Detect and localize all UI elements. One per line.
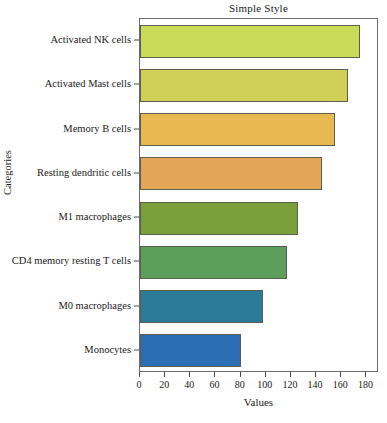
y-axis-tick-label: Monocytes [84,344,131,356]
x-tick-mark [365,372,366,377]
y-axis-tick-label: M0 macrophages [58,300,131,312]
x-tick-mark [240,372,241,377]
x-axis-tick-label: 160 [333,379,348,391]
x-tick-mark [265,372,266,377]
x-axis-tick-label: 40 [184,379,194,391]
bar [140,246,287,279]
x-axis-tick-label: 120 [282,379,297,391]
plot-area [139,18,378,372]
x-axis-tick-label: 80 [235,379,245,391]
bar [140,290,263,323]
y-axis-tick-label: Activated Mast cells [45,78,131,90]
y-axis-tick-label: Memory B cells [63,123,131,135]
chart-title: Simple Style [139,1,378,15]
bar [140,69,348,102]
x-tick-mark [290,372,291,377]
y-axis-tick-label: CD4 memory resting T cells [12,255,131,267]
x-axis-tick-label: 100 [257,379,272,391]
bar-chart: Simple Style Categories Activated NK cel… [0,0,387,423]
y-axis-tick-label: Resting dendritic cells [37,167,131,179]
x-tick-mark [214,372,215,377]
bar [140,113,335,146]
bar [140,202,298,235]
x-axis-title: Values [139,396,378,409]
x-tick-mark [315,372,316,377]
x-tick-mark [139,372,140,377]
x-axis-tick-label: 180 [358,379,373,391]
x-axis-tick-label: 20 [159,379,169,391]
x-axis-tick-label: 0 [137,379,142,391]
y-axis-tick-labels: Activated NK cellsActivated Mast cellsMe… [0,18,139,372]
bars-layer [140,19,377,371]
y-axis-tick-label: M1 macrophages [58,211,131,223]
x-axis-tick-label: 140 [308,379,323,391]
y-axis-tick-label: Activated NK cells [51,34,131,46]
x-tick-mark [340,372,341,377]
x-axis-tick-label: 60 [209,379,219,391]
bar [140,157,322,190]
bar [140,334,241,367]
x-tick-mark [164,372,165,377]
bar [140,25,360,58]
x-tick-mark [189,372,190,377]
